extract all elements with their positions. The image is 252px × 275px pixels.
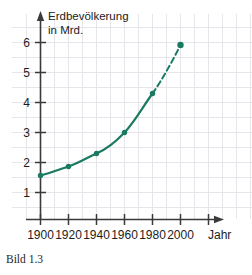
data-point: [66, 164, 71, 169]
y-axis-title-line1: Erdbevölkerung: [48, 10, 129, 22]
y-axis-title-line2: in Mrd.: [48, 24, 83, 36]
y-tick-label-2: 2: [14, 156, 30, 170]
grid-horizontal: [12, 28, 252, 208]
y-tick-label-4: 4: [14, 96, 30, 110]
data-point: [150, 91, 155, 96]
grid-vertical: [27, 14, 251, 219]
x-tick-label-2000: 2000: [164, 228, 198, 242]
x-axis-name: Jahr: [208, 228, 231, 242]
data-point: [122, 130, 127, 135]
data-point: [94, 151, 99, 156]
data-point: [177, 42, 183, 48]
y-axis-title: Erdbevölkerungin Mrd.: [48, 10, 129, 37]
y-tick-label-5: 5: [14, 66, 30, 80]
y-tick-label-6: 6: [14, 36, 30, 50]
figure-container: Erdbevölkerungin Mrd. 1 2 3 4 5 6 1900 1…: [0, 0, 252, 275]
figure-caption: Bild 1.3: [6, 253, 43, 265]
data-point: [38, 173, 43, 178]
y-tick-label-3: 3: [14, 126, 30, 140]
y-tick-label-1: 1: [14, 186, 30, 200]
y-axis-arrow-icon: [37, 11, 44, 21]
